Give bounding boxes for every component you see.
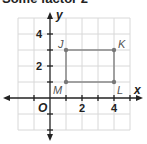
point-label-k: K [118, 38, 126, 50]
y-tick-label-2: 2 [36, 60, 42, 72]
y-tick-label-4: 4 [36, 28, 43, 40]
y-axis [47, 12, 53, 141]
x-axis-label: x [133, 83, 142, 97]
point-label-l: L [117, 84, 123, 96]
origin-label: O [38, 101, 48, 115]
x-tick-label-4: 4 [111, 102, 118, 114]
arrow-down-icon [47, 134, 53, 141]
point-k [112, 48, 116, 52]
coordinate-plane: x y O 2 4 2 4 J K L M [0, 0, 147, 144]
y-axis-label: y [55, 8, 64, 22]
point-label-j: J [57, 38, 64, 50]
point-label-m: M [53, 84, 63, 96]
arrow-up-icon [47, 12, 53, 19]
x-tick-label-2: 2 [79, 102, 85, 114]
point-j [64, 48, 68, 52]
point-m [64, 80, 68, 84]
arrow-left-icon [3, 95, 10, 101]
point-l [112, 80, 116, 84]
